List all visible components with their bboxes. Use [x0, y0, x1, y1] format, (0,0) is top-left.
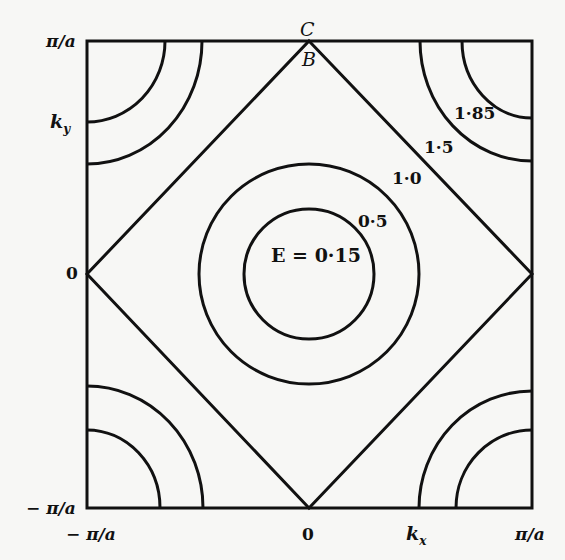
- contour-e-1-85-top-left: [87, 41, 165, 122]
- x-axis-label-k: k: [406, 522, 419, 544]
- contour-label-e-1-5: 1·5: [424, 139, 454, 156]
- y-tick-minus-pi-over-a: − π/a: [26, 500, 76, 517]
- contour-label-e-0-15: E = 0·15: [271, 246, 361, 265]
- x-axis-label-sub: x: [419, 534, 426, 548]
- contour-e-1-5-bottom-left: [87, 386, 203, 508]
- contour-label-e-0-5: 0·5: [358, 213, 388, 230]
- contour-plot: [0, 0, 565, 560]
- y-axis-label: ky: [50, 112, 70, 135]
- x-tick-minus-pi-over-a: − π/a: [66, 526, 116, 543]
- y-tick-zero: 0: [66, 265, 78, 282]
- contour-e-0-15: [244, 209, 374, 339]
- point-label-b: B: [302, 50, 316, 69]
- x-tick-zero: 0: [302, 526, 314, 543]
- contour-e-1-5-top-left: [87, 41, 202, 164]
- contour-label-e-1-0: 1·0: [392, 170, 422, 187]
- point-label-c: C: [300, 20, 315, 39]
- contour-e-0-5: [199, 164, 419, 384]
- contour-e-1-85-bottom-right: [456, 430, 532, 508]
- contour-e-1-85-bottom-left: [87, 430, 160, 508]
- contour-label-e-1-85: 1·85: [454, 105, 495, 122]
- y-axis-label-k: k: [50, 110, 63, 132]
- y-axis-label-sub: y: [63, 122, 70, 136]
- x-tick-pi-over-a: π/a: [515, 526, 545, 543]
- x-axis-label: kx: [406, 524, 426, 547]
- y-tick-pi-over-a: π/a: [46, 33, 76, 50]
- contour-e-1-5-bottom-right: [419, 391, 532, 508]
